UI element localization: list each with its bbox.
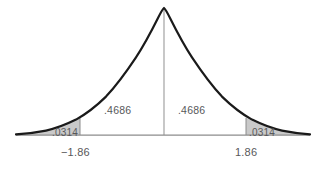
right-tail-area-label: .0314 bbox=[249, 127, 275, 138]
x-axis-tick-label-left: −1.86 bbox=[61, 146, 90, 158]
left-body-area-label: .4686 bbox=[104, 104, 131, 116]
right-body-area-label: .4686 bbox=[178, 104, 205, 116]
normal-distribution-chart: .4686 .4686 .0314 .0314 −1.86 1.86 bbox=[0, 0, 326, 170]
normal-density-curve bbox=[16, 8, 310, 134]
left-tail-area-label: .0314 bbox=[52, 127, 78, 138]
x-axis-tick-label-right: 1.86 bbox=[235, 146, 257, 158]
bell-curve-graphic bbox=[0, 0, 326, 170]
